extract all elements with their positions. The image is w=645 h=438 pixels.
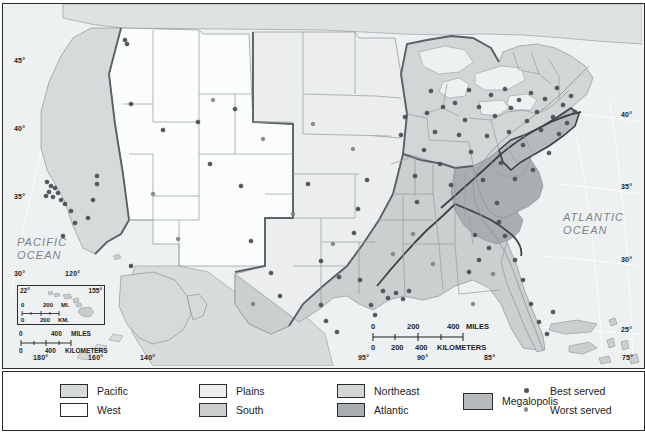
legend-label-pacific: Pacific bbox=[97, 385, 128, 397]
legend-entry-atlantic[interactable]: Atlantic bbox=[337, 400, 420, 419]
legend-label-northeast: Northeast bbox=[374, 385, 420, 397]
lat-label-45-west: 45° bbox=[14, 57, 25, 64]
scale-km-200: 200 bbox=[391, 343, 404, 352]
lat-label-40-east: 40° bbox=[621, 111, 632, 118]
atlantic-ocean-label: ATLANTIC OCEAN bbox=[563, 211, 624, 237]
lat-label-40-west: 40° bbox=[14, 125, 25, 132]
hawaii-scale-miles-0: 0 bbox=[21, 302, 24, 308]
alaska-scale-miles-unit: MILES bbox=[71, 330, 91, 337]
legend-column-3: Northeast Atlantic bbox=[337, 381, 420, 419]
alaska-scale-miles-0: 0 bbox=[19, 330, 23, 337]
lat-label-35-east: 35° bbox=[621, 183, 632, 190]
main-scale-bar: 0 200 400 MILES 0 200 400 KILOMETERS bbox=[371, 322, 506, 353]
alaska-scale-bar: 0 400 MILES 0 400 KILOMETERS bbox=[19, 330, 119, 356]
legend-swatch-west bbox=[60, 403, 88, 417]
legend-label-west: West bbox=[97, 404, 121, 416]
hawaii-scale-km-0: 0 bbox=[21, 317, 24, 323]
legend-entry-best-served[interactable]: Best served bbox=[516, 381, 612, 400]
hawaii-scale-miles-200: 200 bbox=[43, 302, 53, 308]
legend-entry-worst-served[interactable]: Worst served bbox=[516, 400, 612, 419]
lon-label-75: 75° bbox=[622, 354, 633, 361]
legend-swatch-plains bbox=[199, 384, 227, 398]
scale-miles-200: 200 bbox=[407, 322, 420, 331]
lat-label-30-east: 30° bbox=[621, 256, 632, 263]
scale-bar-graphic bbox=[371, 333, 491, 342]
hawaii-inset-scale: 0 200 MI. 0 200 KM. bbox=[21, 302, 85, 325]
alaska-scale-km-400: 400 bbox=[45, 347, 56, 354]
legend-entry-west[interactable]: West bbox=[60, 400, 128, 419]
legend-label-south: South bbox=[236, 404, 263, 416]
scale-miles-0: 0 bbox=[371, 322, 375, 331]
lon-label-140: 140° bbox=[140, 354, 155, 361]
scale-miles-unit: MILES bbox=[466, 322, 489, 331]
alaska-scale-km-0: 0 bbox=[19, 347, 23, 354]
hawaii-inset[interactable]: 22° 155° 0 200 MI. 0 200 bbox=[17, 285, 105, 325]
map-figure: PACIFIC OCEAN ATLANTIC OCEAN 45° 40° 35°… bbox=[0, 0, 645, 438]
legend-swatch-pacific bbox=[60, 384, 88, 398]
lon-label-90: 90° bbox=[417, 354, 428, 361]
map-legend: Pacific West Plains South Northeast bbox=[2, 371, 645, 431]
legend-dot-worst-served bbox=[516, 407, 536, 411]
legend-swatch-megalopolis bbox=[463, 393, 493, 410]
legend-entry-pacific[interactable]: Pacific bbox=[60, 381, 128, 400]
hawaii-scale-km-200: 200 bbox=[40, 317, 50, 323]
lon-label-95: 95° bbox=[358, 354, 369, 361]
legend-entry-plains[interactable]: Plains bbox=[199, 381, 265, 400]
scale-km-0: 0 bbox=[371, 343, 375, 352]
legend-label-plains: Plains bbox=[236, 385, 265, 397]
lon-label-85: 85° bbox=[484, 354, 495, 361]
lat-label-30-west: 30° bbox=[14, 270, 25, 277]
legend-column-2: Plains South bbox=[199, 381, 265, 419]
scale-miles-400: 400 bbox=[447, 322, 460, 331]
scale-km-unit: KILOMETERS bbox=[437, 343, 486, 352]
pacific-ocean-label: PACIFIC OCEAN bbox=[17, 236, 67, 262]
lat-label-25-east: 25° bbox=[621, 326, 632, 333]
legend-swatch-northeast bbox=[337, 384, 365, 398]
legend-column-1: Pacific West bbox=[60, 381, 128, 419]
legend-entry-south[interactable]: South bbox=[199, 400, 265, 419]
alaska-scale-miles-400: 400 bbox=[51, 330, 62, 337]
legend-swatch-south bbox=[199, 403, 227, 417]
lon-label-120: 120° bbox=[65, 270, 80, 277]
legend-label-worst-served: Worst served bbox=[550, 404, 612, 416]
legend-dot-best-served bbox=[516, 388, 536, 393]
best-served-dot-icon bbox=[524, 388, 529, 393]
hawaii-inset-lat-label: 22° bbox=[20, 287, 30, 294]
alaska-scale-km-unit: KILOMETERS bbox=[65, 347, 108, 354]
legend-label-atlantic: Atlantic bbox=[374, 404, 408, 416]
hawaii-inset-lon-label: 155° bbox=[89, 287, 102, 294]
legend-swatch-atlantic bbox=[337, 403, 365, 417]
worst-served-dot-icon bbox=[524, 407, 528, 411]
map-canvas[interactable]: PACIFIC OCEAN ATLANTIC OCEAN 45° 40° 35°… bbox=[2, 3, 645, 369]
legend-column-dots: Best served Worst served bbox=[516, 381, 612, 419]
legend-label-best-served: Best served bbox=[550, 385, 605, 397]
legend-entry-northeast[interactable]: Northeast bbox=[337, 381, 420, 400]
alaska-scale-graphic bbox=[19, 339, 111, 347]
hawaii-scale-graphic bbox=[21, 310, 81, 317]
scale-km-400: 400 bbox=[415, 343, 428, 352]
hawaii-scale-miles-unit: MI. bbox=[61, 302, 69, 308]
lat-label-35-west: 35° bbox=[14, 193, 25, 200]
hawaii-scale-km-unit: KM. bbox=[58, 317, 69, 323]
